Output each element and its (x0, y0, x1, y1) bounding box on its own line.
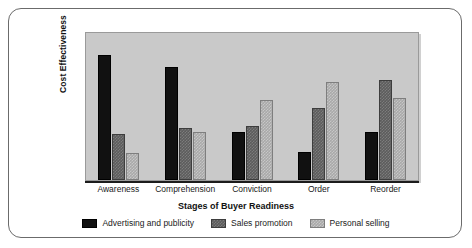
x-axis-tick-label: Reorder (352, 184, 419, 194)
plot-area (85, 32, 419, 181)
bar (126, 153, 139, 180)
legend-item[interactable]: Sales promotion (211, 218, 292, 228)
legend-swatch-light-gray (310, 219, 325, 228)
y-axis-title: Cost Effectiveness (58, 0, 68, 114)
x-axis-tick-label: Conviction (219, 184, 286, 194)
chart-legend: Advertising and publicitySales promotion… (9, 218, 463, 228)
bar-group (232, 33, 275, 180)
bar (232, 132, 245, 180)
bar (179, 128, 192, 180)
bar (365, 132, 378, 180)
legend-item-label: Sales promotion (231, 218, 292, 228)
x-axis-title: Stages of Buyer Readiness (9, 201, 463, 211)
legend-swatch-black (82, 219, 97, 228)
bar (298, 152, 311, 180)
legend-item-label: Personal selling (330, 218, 390, 228)
bar (193, 132, 206, 180)
x-axis-tick-label: Order (285, 184, 352, 194)
x-axis-tick-labels: AwarenessComprehensionConvictionOrderReo… (85, 184, 419, 198)
bar (112, 134, 125, 180)
bar (260, 100, 273, 180)
bar (165, 67, 178, 180)
legend-item[interactable]: Personal selling (310, 218, 390, 228)
bar (326, 82, 339, 180)
bar-group (365, 33, 408, 180)
bars-layer (86, 33, 418, 180)
bar (246, 126, 259, 180)
legend-swatch-dark-gray (211, 219, 226, 228)
x-axis-line (85, 181, 419, 183)
x-axis-tick-label: Awareness (85, 184, 152, 194)
bar-group (98, 33, 141, 180)
bar (312, 108, 325, 180)
legend-item-label: Advertising and publicity (102, 218, 194, 228)
bar (393, 98, 406, 180)
figure-frame: Cost Effectiveness AwarenessComprehensio… (8, 8, 462, 238)
bar (379, 80, 392, 180)
legend-item[interactable]: Advertising and publicity (82, 218, 194, 228)
bar-group (165, 33, 208, 180)
bar-group (298, 33, 341, 180)
bar (98, 55, 111, 180)
x-axis-tick-label: Comprehension (152, 184, 219, 194)
